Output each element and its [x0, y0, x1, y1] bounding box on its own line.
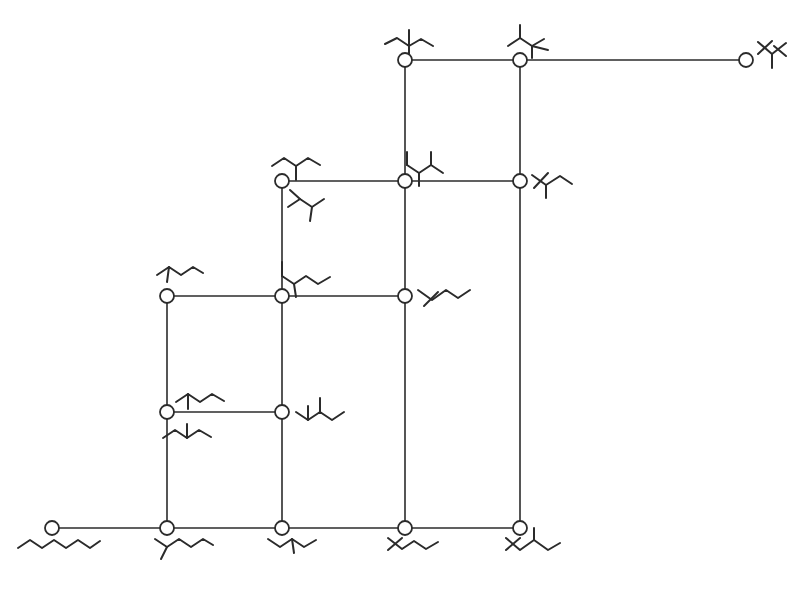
- node-n5[interactable]: [513, 521, 527, 535]
- node-n2[interactable]: [160, 521, 174, 535]
- isomer-lattice-svg: [0, 0, 802, 590]
- node-n10[interactable]: [398, 289, 412, 303]
- diagram-root: [0, 0, 802, 590]
- node-n1[interactable]: [45, 521, 59, 535]
- node-n16[interactable]: [739, 53, 753, 67]
- node-n4[interactable]: [398, 521, 412, 535]
- node-n11[interactable]: [275, 174, 289, 188]
- node-n9[interactable]: [275, 289, 289, 303]
- node-n7[interactable]: [275, 405, 289, 419]
- node-n8[interactable]: [160, 289, 174, 303]
- node-n6[interactable]: [160, 405, 174, 419]
- node-n14[interactable]: [398, 53, 412, 67]
- node-n3[interactable]: [275, 521, 289, 535]
- node-n12[interactable]: [398, 174, 412, 188]
- node-n13[interactable]: [513, 174, 527, 188]
- node-n15[interactable]: [513, 53, 527, 67]
